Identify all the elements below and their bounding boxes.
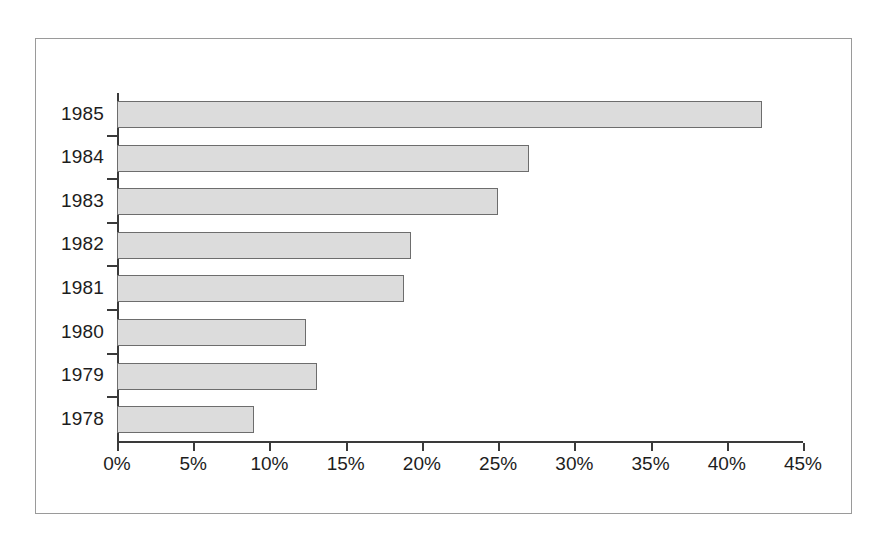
x-axis-tick — [193, 443, 195, 451]
bar-1983[interactable] — [117, 188, 498, 215]
x-axis-label-40: 40% — [692, 453, 762, 475]
bar-1985[interactable] — [117, 101, 762, 128]
y-axis-tick — [107, 396, 118, 398]
bar-1979[interactable] — [117, 363, 317, 390]
x-axis-tick — [422, 443, 424, 451]
y-axis-tick — [107, 265, 118, 267]
bar-row — [117, 398, 803, 442]
y-axis-label-1978: 1978 — [36, 408, 104, 430]
bar-row — [117, 355, 803, 399]
bar-row — [117, 137, 803, 181]
x-axis-label-45: 45% — [768, 453, 838, 475]
y-axis-label-1979: 1979 — [36, 364, 104, 386]
x-axis-label-15: 15% — [311, 453, 381, 475]
chart-frame: 19851984198319821981198019791978 0%5%10%… — [35, 38, 852, 514]
bar-row — [117, 267, 803, 311]
x-axis-label-20: 20% — [387, 453, 457, 475]
x-axis-label-10: 10% — [234, 453, 304, 475]
y-axis-label-1984: 1984 — [36, 146, 104, 168]
x-axis-tick — [727, 443, 729, 451]
y-axis-label-1980: 1980 — [36, 321, 104, 343]
x-axis-tick — [574, 443, 576, 451]
y-axis-tick — [107, 309, 118, 311]
y-axis-label-1983: 1983 — [36, 190, 104, 212]
x-axis-label-0: 0% — [82, 453, 152, 475]
bar-1978[interactable] — [117, 406, 254, 433]
bar-row — [117, 180, 803, 224]
page-canvas: 19851984198319821981198019791978 0%5%10%… — [0, 0, 885, 550]
x-axis-label-30: 30% — [539, 453, 609, 475]
bar-1984[interactable] — [117, 145, 529, 172]
x-axis-tick — [498, 443, 500, 451]
x-axis-tick — [117, 443, 119, 451]
y-axis-tick — [107, 222, 118, 224]
bar-1981[interactable] — [117, 275, 404, 302]
y-axis-label-1985: 1985 — [36, 103, 104, 125]
y-axis-tick — [107, 353, 118, 355]
bar-row — [117, 311, 803, 355]
x-axis-tick — [651, 443, 653, 451]
x-axis-tick — [803, 443, 805, 451]
bar-1980[interactable] — [117, 319, 306, 346]
x-axis-tick — [346, 443, 348, 451]
bar-row — [117, 93, 803, 137]
bar-row — [117, 224, 803, 268]
x-axis-label-25: 25% — [463, 453, 533, 475]
y-axis-tick — [107, 178, 118, 180]
y-axis-label-1981: 1981 — [36, 277, 104, 299]
x-axis-label-5: 5% — [158, 453, 228, 475]
bar-1982[interactable] — [117, 232, 411, 259]
y-axis-tick — [107, 135, 118, 137]
y-axis-label-1982: 1982 — [36, 233, 104, 255]
x-axis-label-35: 35% — [616, 453, 686, 475]
x-axis-tick — [269, 443, 271, 451]
bar-chart-plot-area: 19851984198319821981198019791978 0%5%10%… — [36, 39, 853, 515]
